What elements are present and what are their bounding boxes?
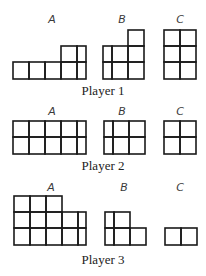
player-1-set-a-grid [13,46,86,79]
player-2-set-c-label: C [176,106,184,117]
grid-cell [78,228,86,245]
player-2-set-a-label: A [48,106,56,117]
grid-cell [130,228,146,245]
grid-cell [180,30,196,46]
grid-cell [13,121,29,137]
grid-cell [62,228,78,245]
grid-cell [164,46,180,62]
grid-cell [61,62,77,79]
player-2-set-b-grid [104,121,145,154]
player-1-set-b-grid [103,30,144,79]
player-3-set-a-label: A [47,182,55,193]
grid-cell [181,228,197,245]
grid-cell [13,62,29,79]
grid-cell [61,137,77,154]
grid-cell [46,212,62,228]
grid-cell [114,228,130,245]
grid-cell [105,228,114,245]
grid-cell [180,46,196,62]
grid-cell [112,46,128,62]
grid-cell [14,228,30,245]
grid-cell [14,196,30,212]
grid-cell [113,121,129,137]
grid-layer [0,0,206,276]
grid-cell [114,212,130,228]
player-1-set-b-label: B [118,14,126,25]
grid-cell [104,137,113,154]
grid-cell [164,137,180,154]
player-3-set-c-label: C [176,182,184,193]
player-3-set-b-grid [105,212,146,245]
grid-cell [30,212,46,228]
grid-cell [78,212,86,228]
grid-cell [30,228,46,245]
grid-cell [45,62,61,79]
player-1-set-c-label: C [176,14,184,25]
grid-cell [29,137,45,154]
player-1-set-c-grid [164,30,196,79]
grid-cell [30,196,46,212]
grid-cell [164,121,180,137]
grid-cell [46,196,62,212]
player-3-set-b-label: B [120,182,128,193]
grid-cell [165,228,181,245]
grid-cell [45,121,61,137]
grid-cell [46,228,62,245]
player-3-set-a-grid [14,196,86,245]
grid-cell [113,137,129,154]
grid-cell [128,30,144,46]
player-2-set-b-label: B [118,106,126,117]
grid-cell [77,46,86,62]
grid-cell [45,137,61,154]
player-2-set-c-grid [164,121,196,154]
grid-cell [103,46,112,62]
grid-cell [77,62,86,79]
player-sets-figure: A B C Player 1 A B C Player 2 A B C Play… [0,0,206,276]
grid-cell [77,137,86,154]
grid-cell [29,62,45,79]
grid-cell [128,46,144,62]
grid-cell [129,137,145,154]
grid-cell [164,30,180,46]
player-1-label: Player 1 [0,84,206,97]
grid-cell [14,212,30,228]
grid-cell [128,62,144,79]
player-3-label: Player 3 [0,253,206,266]
grid-cell [62,212,78,228]
player-2-label: Player 2 [0,159,206,172]
grid-cell [180,137,196,154]
grid-cell [103,62,112,79]
grid-cell [129,121,145,137]
grid-cell [112,62,128,79]
grid-cell [61,121,77,137]
player-1-set-a-label: A [48,14,56,25]
player-3-set-c-grid [165,228,197,245]
player-2-set-a-grid [13,121,86,154]
grid-cell [29,121,45,137]
grid-cell [164,62,180,79]
grid-cell [105,212,114,228]
grid-cell [104,121,113,137]
grid-cell [61,46,77,62]
grid-cell [77,121,86,137]
grid-cell [180,121,196,137]
grid-cell [180,62,196,79]
grid-cell [13,137,29,154]
